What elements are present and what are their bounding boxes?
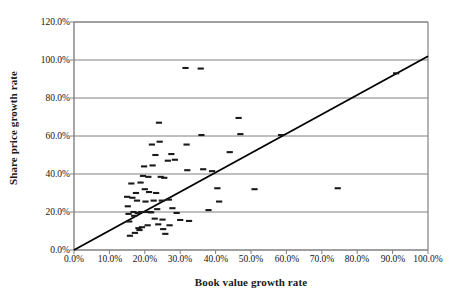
scatter-chart: Share price growth rate 120.0% 100.0% 80… [0, 0, 461, 296]
data-points [124, 68, 399, 236]
gridlines [74, 22, 428, 212]
plot-area [0, 0, 461, 296]
